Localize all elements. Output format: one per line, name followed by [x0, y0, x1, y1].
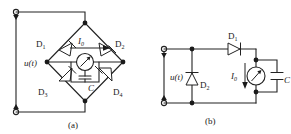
diode-D3-triangle-icon: [59, 68, 72, 81]
meter-branch-a: [71, 54, 99, 83]
bottom-connection-wire: [16, 101, 85, 112]
top-terminal-arrow-icon: [13, 15, 19, 20]
node-b-bottom-shunt: [190, 101, 195, 106]
diode-D1-label: D1: [36, 39, 46, 50]
diode-D4-label: D4: [113, 87, 123, 98]
diode-D1-b: [228, 43, 241, 56]
caption-a: (a): [68, 120, 78, 130]
diode-D2-b-triangle-icon: [186, 73, 198, 85]
source-label-a: u(t): [24, 58, 37, 68]
output-branch-b: [247, 49, 283, 103]
bridge-node-right: [121, 60, 126, 65]
circuit-a-group: u(t) D1 D2 D3 D4 I0 C (a): [13, 9, 125, 130]
capacitor-label-a: C: [88, 83, 95, 93]
current-label-a: I0: [77, 36, 84, 47]
bridge-node-left: [45, 60, 50, 65]
diode-D1-b-label: D1: [228, 31, 238, 42]
bottom-terminal-arrow-icon: [13, 104, 19, 109]
caption-b: (b): [205, 116, 216, 126]
diode-D2-b: [186, 73, 199, 86]
circuit-a-source-branch: [13, 9, 19, 114]
node-b-top-shunt: [190, 47, 195, 52]
diode-D2-b-label: D2: [200, 80, 210, 91]
bottom-terminal-arrow-icon-b: [161, 95, 167, 100]
current-arrow-a: [70, 45, 110, 51]
circuit-b-group: u(t) D1 D2 I0 C (b): [161, 31, 291, 126]
circuit-canvas: u(t) D1 D2 D3 D4 I0 C (a): [0, 0, 291, 134]
diode-D4: [95, 66, 112, 81]
bridge-node-top: [83, 21, 88, 26]
diode-D1-b-triangle-icon: [228, 43, 240, 55]
diode-D4-triangle-icon: [99, 68, 112, 81]
capacitor-label-b: C: [284, 75, 291, 85]
diode-D2-label: D2: [115, 39, 125, 50]
circuit-figure: u(t) D1 D2 D3 D4 I0 C (a): [0, 0, 291, 134]
top-connection-wire: [16, 12, 85, 23]
source-label-b: u(t): [170, 72, 183, 82]
circuit-b-source-branch: [161, 46, 167, 105]
top-terminal-arrow-icon-b: [161, 53, 167, 58]
diode-D2: [99, 43, 116, 56]
current-arrow-b-head-icon: [242, 82, 248, 89]
diode-D3-label: D3: [38, 87, 48, 98]
diode-D3: [59, 66, 76, 81]
diode-D1-triangle-icon: [59, 43, 72, 56]
current-label-b: I0: [230, 71, 237, 82]
bridge-node-bottom: [83, 99, 88, 104]
